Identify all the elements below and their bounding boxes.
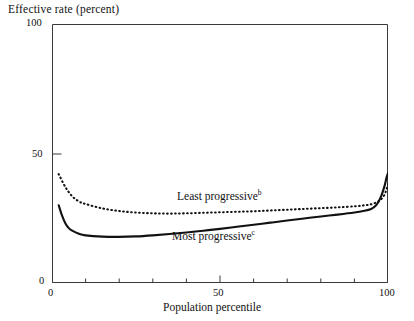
chart-figure: Effective rate (percent) 100 50 0 0 50 1… [0,0,414,321]
x-tick-label-50: 50 [213,287,224,298]
axis-frame [53,25,388,283]
series-curve-most-progressive [59,173,388,237]
x-tick-label-0: 0 [48,287,53,298]
x-tick-label-100: 100 [379,287,395,298]
tick-marks [53,154,388,283]
y-tick-label-100: 100 [26,17,42,28]
chart-canvas [52,24,388,283]
y-tick-label-50: 50 [32,148,43,159]
series-curve-least-progressive [59,174,388,213]
y-tick-label-0: 0 [39,275,44,286]
x-axis-title: Population percentile [163,301,261,313]
data-curves [59,173,388,237]
y-axis-title: Effective rate (percent) [8,3,119,15]
plot-area [52,24,388,283]
